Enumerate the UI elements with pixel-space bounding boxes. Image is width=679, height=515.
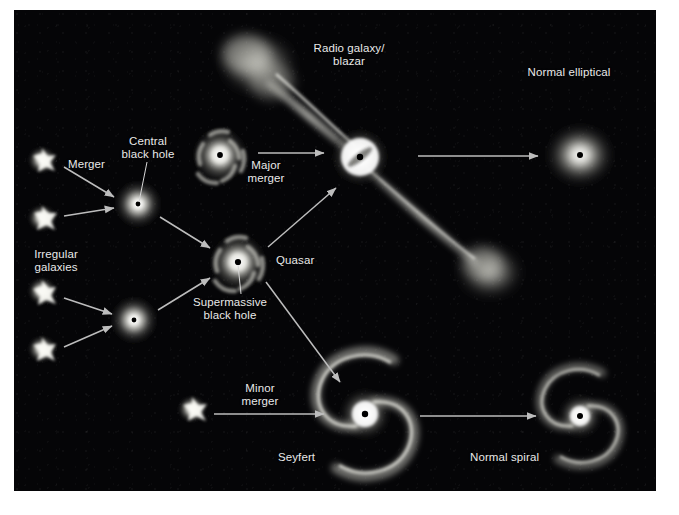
arrow-merger-top-to-quasar — [160, 217, 210, 248]
irregular-galaxy-3 — [27, 277, 57, 305]
diagram-overlay — [14, 10, 656, 491]
irregular-galaxy-4 — [27, 335, 57, 363]
label-radio-galaxy-blazar: Radio galaxy/ blazar — [294, 42, 404, 68]
label-major-merger: Major merger — [229, 159, 303, 185]
irregular-galaxy-1 — [27, 146, 57, 174]
label-central-black-hole: Central black hole — [106, 135, 190, 161]
arrow-irregular3-to-merger — [64, 298, 112, 314]
arrow-irregular1-to-merger — [64, 167, 114, 197]
label-normal-elliptical: Normal elliptical — [506, 66, 632, 79]
normal-elliptical-galaxy — [542, 121, 618, 189]
astronomy-diagram-plate: Irregular galaxies Merger Central black … — [14, 10, 656, 491]
label-supermassive-black-hole: Supermassive black hole — [170, 296, 290, 322]
label-minor-merger: Minor merger — [224, 382, 296, 408]
normal-spiral-galaxy — [540, 367, 620, 465]
minor-merger-companion — [177, 395, 207, 423]
label-seyfert: Seyfert — [278, 451, 315, 464]
arrow-irregular4-to-merger — [64, 326, 112, 347]
irregular-galaxy-2 — [27, 204, 57, 232]
figure-canvas: Irregular galaxies Merger Central black … — [0, 0, 679, 515]
radio-lobe-upper — [218, 33, 298, 99]
merger-remnant-top — [112, 178, 164, 230]
quasar-galaxy — [207, 231, 269, 293]
label-normal-spiral: Normal spiral — [470, 451, 539, 464]
label-quasar: Quasar — [276, 254, 314, 267]
arrow-quasar-to-radio-galaxy — [268, 188, 336, 247]
arrow-irregular2-to-merger — [64, 208, 114, 216]
merger-remnant-bottom — [108, 294, 160, 346]
label-merger: Merger — [68, 158, 105, 171]
label-irregular-galaxies: Irregular galaxies — [20, 248, 92, 274]
